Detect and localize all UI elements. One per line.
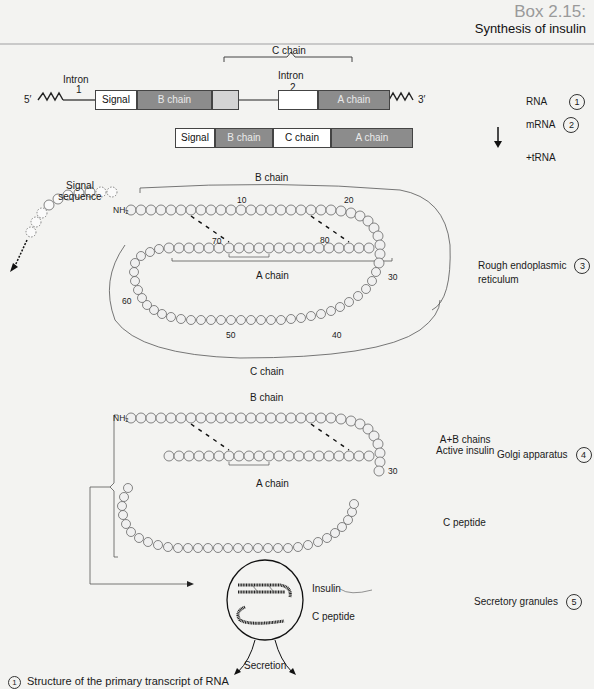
secretion-label: Secretion bbox=[244, 660, 286, 671]
residue-number-30: 30 bbox=[388, 272, 397, 282]
rna-segment-c-part1 bbox=[212, 90, 239, 110]
stage-label: mRNA bbox=[526, 119, 555, 130]
stage-number-badge: 2 bbox=[563, 117, 579, 133]
residue-number-70: 70 bbox=[212, 236, 221, 246]
stage-mrna: mRNA2 bbox=[526, 117, 579, 133]
mrna-segment-b-chain: B chain bbox=[215, 128, 273, 148]
rna-segment-b-chain: B chain bbox=[137, 90, 212, 110]
residue-number-10: 10 bbox=[237, 195, 246, 205]
golgi-nh2-label: NH₂ bbox=[113, 413, 129, 423]
mrna-segment-a-chain: A chain bbox=[331, 128, 413, 148]
stage-secretory-granules: Secretory granules5 bbox=[474, 594, 582, 610]
stage-number-badge: 5 bbox=[566, 594, 582, 610]
stage-trna: +tRNA bbox=[526, 152, 556, 163]
residue-number-60: 60 bbox=[122, 296, 131, 306]
intron2-label: Intron bbox=[278, 70, 304, 81]
active-insulin-line2: Active insulin bbox=[436, 445, 494, 456]
figure-caption: 1Structure of the primary transcript of … bbox=[8, 675, 229, 689]
golgi-residue-number-30: 30 bbox=[388, 466, 397, 476]
granule-c-peptide-label: C peptide bbox=[312, 611, 355, 622]
golgi-a-chain-label: A chain bbox=[256, 478, 289, 489]
golgi-b-chain-label: B chain bbox=[250, 392, 283, 403]
stage-label: Secretory granules bbox=[474, 596, 558, 607]
stage-number-badge: 3 bbox=[574, 258, 590, 274]
rer-b-chain-label: B chain bbox=[255, 172, 288, 183]
five-prime-label: 5′ bbox=[24, 94, 31, 105]
three-prime-label: 3′ bbox=[418, 94, 425, 105]
residue-number-50: 50 bbox=[226, 330, 235, 340]
caption-text: Structure of the primary transcript of R… bbox=[27, 675, 229, 687]
rna-segment-c-part2 bbox=[278, 90, 318, 110]
stage-rough-er: Rough endoplasmic3 reticulum bbox=[478, 258, 590, 285]
stage-rna: RNA1 bbox=[526, 94, 585, 110]
stage-label: RNA bbox=[526, 96, 547, 107]
rna-segment-a-chain: A chain bbox=[318, 90, 390, 110]
active-insulin-line1: A+B chains bbox=[436, 434, 494, 445]
mrna-segment-c-chain: C chain bbox=[273, 128, 331, 148]
rer-nh2-label: NH₂ bbox=[113, 205, 129, 215]
mrna-segment-signal: Signal bbox=[175, 128, 215, 148]
stage-label: Rough endoplasmic bbox=[478, 260, 566, 271]
residue-number-40: 40 bbox=[332, 330, 341, 340]
signal-label-line2: sequence bbox=[55, 191, 105, 202]
stage-label-line2: reticulum bbox=[478, 274, 590, 285]
intron1-number: 1 bbox=[76, 84, 82, 95]
residue-number-20: 20 bbox=[344, 195, 353, 205]
granule-insulin-label: Insulin bbox=[312, 583, 341, 594]
golgi-c-peptide-label: C peptide bbox=[443, 517, 486, 528]
stage-number-badge: 1 bbox=[569, 94, 585, 110]
stage-label: Golgi apparatus bbox=[497, 449, 568, 460]
signal-sequence-label: Signal sequence bbox=[55, 180, 105, 202]
active-insulin-label: A+B chains Active insulin bbox=[436, 434, 494, 456]
rna-segment-signal: Signal bbox=[95, 90, 137, 110]
residue-number-80: 80 bbox=[320, 235, 329, 245]
stage-number-badge: 4 bbox=[576, 447, 592, 463]
caption-number-badge: 1 bbox=[8, 676, 21, 689]
rer-c-chain-label: C chain bbox=[250, 366, 284, 377]
rer-a-chain-label: A chain bbox=[256, 270, 289, 281]
stage-golgi: Golgi apparatus4 bbox=[497, 447, 592, 463]
signal-label-line1: Signal bbox=[55, 180, 105, 191]
c-chain-bracket-label: C chain bbox=[272, 45, 306, 56]
